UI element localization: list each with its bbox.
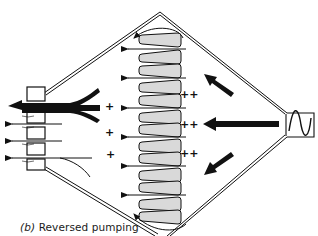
right-inlet-port xyxy=(286,111,314,137)
caption-text: Reversed pumping xyxy=(39,221,139,233)
caption-label: (b) xyxy=(20,221,35,233)
charge-marker-double-plus: ++ xyxy=(180,119,198,130)
charge-marker-plus: + xyxy=(105,101,114,112)
inflow-arrows xyxy=(203,74,279,175)
secondary-outflows xyxy=(12,116,92,177)
charge-marker-double-plus: ++ xyxy=(180,89,198,100)
diagram-canvas xyxy=(0,0,318,236)
charge-marker-double-plus: ++ xyxy=(180,148,198,159)
figure-caption: (b) Reversed pumping xyxy=(20,221,139,233)
charge-marker-plus: + xyxy=(106,149,115,160)
charge-marker-plus: + xyxy=(105,127,114,138)
main-outflow-jet xyxy=(8,88,100,123)
reversed-pumping-figure: + + + ++ ++ ++ (b) Reversed pumping xyxy=(0,0,318,236)
